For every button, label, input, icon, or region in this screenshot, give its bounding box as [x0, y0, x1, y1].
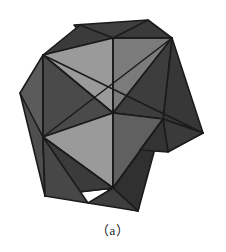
figure-caption: （a）: [0, 222, 226, 240]
stellated-polyhedron-illustration: [0, 0, 226, 226]
figure-container: （a）: [0, 0, 226, 252]
